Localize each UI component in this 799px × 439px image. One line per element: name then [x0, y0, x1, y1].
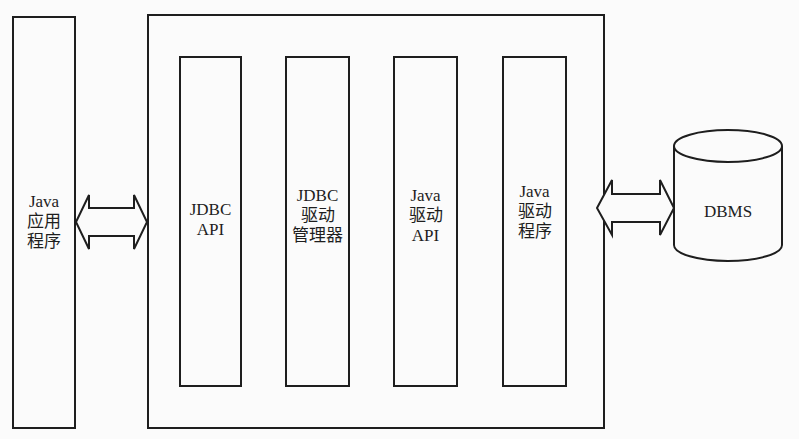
bidirectional-arrow-left — [76, 195, 147, 249]
bidirectional-arrow-right — [597, 180, 674, 235]
dbms-label: DBMS — [674, 202, 782, 222]
database-cylinder-icon — [674, 130, 782, 261]
